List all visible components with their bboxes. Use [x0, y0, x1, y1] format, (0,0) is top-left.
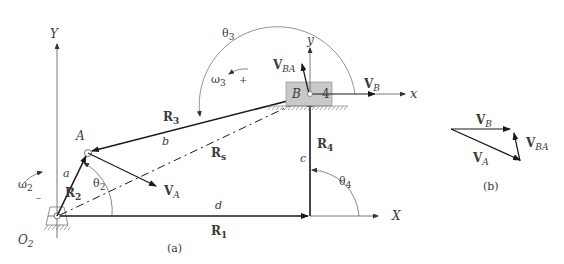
slider-4-label: 4: [322, 87, 330, 101]
slider-block-4: [268, 82, 348, 110]
link-d-label: d: [215, 199, 222, 212]
omega3-label: ω3: [211, 73, 226, 88]
o2-label: O2: [18, 233, 34, 249]
vba-label: VBA: [272, 58, 296, 74]
theta3-label: θ3: [222, 27, 235, 42]
omega3-sign: +: [239, 74, 247, 85]
global-x-label: X: [391, 209, 401, 223]
pin-b: [308, 92, 313, 97]
caption-b: (b): [483, 180, 499, 193]
polygon-vba-label: VBA: [525, 136, 549, 152]
rs-label: Rs: [211, 146, 226, 162]
point-b-label: B: [291, 87, 301, 101]
r3-label: R3: [163, 110, 179, 126]
theta4-arc: [312, 170, 359, 216]
link-b-label: b: [162, 135, 169, 148]
caption-a: (a): [167, 242, 182, 255]
local-x-label: x: [410, 86, 418, 101]
r2-label: R2: [65, 186, 81, 202]
vb-label: VB: [363, 77, 380, 93]
polygon-va-label: VA: [472, 151, 489, 167]
polygon-vb-label: VB: [475, 113, 492, 129]
va-label: VA: [163, 184, 180, 200]
theta4-label: θ4: [339, 175, 352, 190]
point-a-label: A: [75, 129, 85, 143]
omega2-label: ω2: [18, 178, 33, 193]
local-y-label: y: [306, 33, 314, 47]
r4-label: R4: [317, 137, 333, 153]
link-a-label: a: [63, 167, 70, 180]
r1-label: R1: [211, 224, 227, 240]
link-c-label: c: [300, 152, 306, 165]
theta2-label: θ2: [93, 177, 105, 192]
global-y-label: Y: [50, 27, 59, 41]
omega2-sign: –: [36, 192, 41, 203]
mechanism-diagram: Y X x y O2 A B 4 a b c d R1 R2 R3 R4 Rs …: [0, 0, 564, 264]
